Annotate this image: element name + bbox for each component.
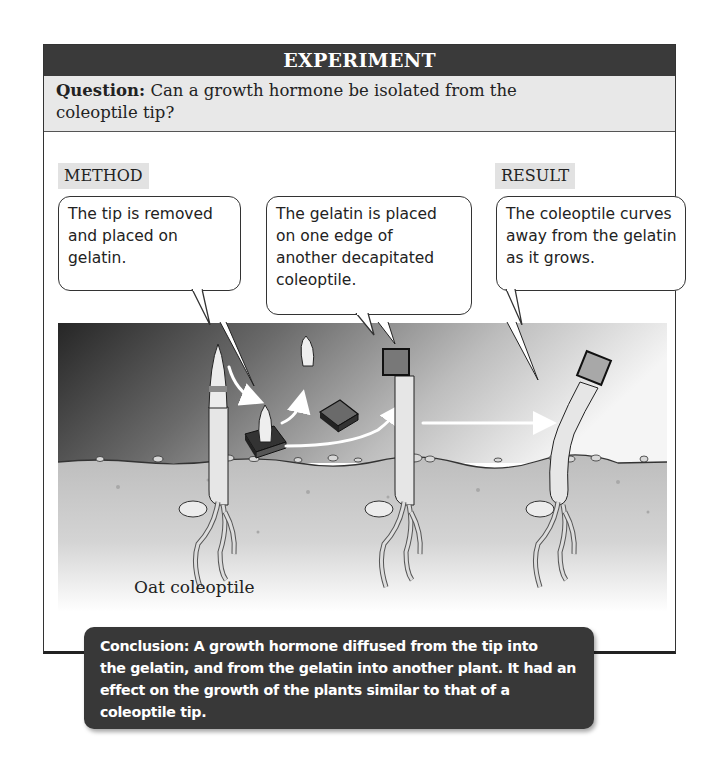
question-line-2: coleoptile tip? bbox=[56, 103, 174, 122]
experiment-title: EXPERIMENT bbox=[44, 45, 675, 76]
question-line-1: Can a growth hormone be isolated from th… bbox=[145, 81, 517, 100]
experiment-panel: EXPERIMENT Question: Can a growth hormon… bbox=[43, 44, 676, 654]
oat-coleoptile-label: Oat coleoptile bbox=[134, 577, 254, 597]
conclusion-line: Conclusion: A growth hormone diffused fr… bbox=[100, 635, 584, 657]
conclusion-line: effect on the growth of the plants simil… bbox=[100, 679, 584, 701]
result-label: RESULT bbox=[495, 163, 575, 189]
callout-line: another decapitated bbox=[276, 247, 463, 269]
callout-tail-1 bbox=[190, 289, 220, 325]
callout-line: The tip is removed bbox=[68, 203, 232, 225]
callout-line: coleoptile. bbox=[276, 269, 463, 291]
callout-line: gelatin. bbox=[68, 247, 232, 269]
callout-line: The gelatin is placed bbox=[276, 203, 463, 225]
conclusion-line: the gelatin, and from the gelatin into a… bbox=[100, 657, 584, 679]
callout-line: The coleoptile curves bbox=[506, 203, 677, 225]
callout-line: and placed on bbox=[68, 225, 232, 247]
conclusion-line: coleoptile tip. bbox=[100, 701, 584, 723]
callout-line: as it grows. bbox=[506, 247, 677, 269]
callout-line: away from the gelatin bbox=[506, 225, 677, 247]
callout-tail-3 bbox=[496, 289, 526, 325]
conclusion-box: Conclusion: A growth hormone diffused fr… bbox=[84, 627, 594, 729]
coleoptile-illustration bbox=[58, 322, 667, 612]
question-text: Question: Can a growth hormone be isolat… bbox=[44, 76, 675, 132]
question-label: Question: bbox=[56, 81, 145, 100]
callout-tail-2 bbox=[354, 313, 384, 337]
callout-line: on one edge of bbox=[276, 225, 463, 247]
method-label: METHOD bbox=[58, 163, 149, 189]
callout-coleoptile-curves: The coleoptile curves away from the gela… bbox=[496, 196, 686, 291]
callout-tip-removed: The tip is removed and placed on gelatin… bbox=[58, 196, 241, 291]
callout-gelatin-placed: The gelatin is placed on one edge of ano… bbox=[266, 196, 472, 315]
